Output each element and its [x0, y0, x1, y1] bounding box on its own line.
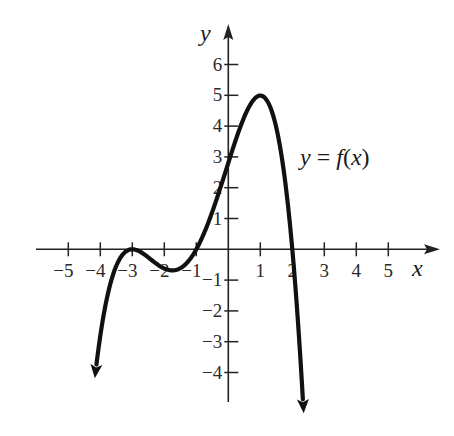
y-tick-label: 3: [213, 146, 223, 167]
function-curve: [96, 96, 302, 400]
x-tick-label: 5: [384, 260, 394, 281]
x-tick-label: 3: [320, 260, 330, 281]
y-tick-label: −2: [202, 300, 222, 321]
function-label-y: y: [298, 144, 311, 170]
x-tick-label: −4: [85, 260, 106, 281]
x-tick-label: 4: [352, 260, 362, 281]
y-tick-label: 6: [213, 54, 223, 75]
y-tick-label: −3: [202, 331, 222, 352]
x-tick-label: −5: [53, 260, 73, 281]
tick-labels: −5−4−3−2−112345654321−1−2−3−4: [53, 54, 393, 383]
x-tick-label: 1: [256, 260, 266, 281]
function-label: y = f(x): [298, 144, 370, 170]
function-label-x: x: [350, 144, 362, 170]
x-tick-label: −3: [117, 260, 137, 281]
y-tick-label: −4: [202, 362, 223, 383]
axes: [36, 24, 440, 402]
function-label-equals: =: [311, 144, 337, 170]
y-tick-label: −1: [202, 269, 222, 290]
x-axis-label: x: [411, 255, 423, 281]
function-label-open-paren: (: [343, 144, 351, 170]
y-axis-label: y: [198, 20, 211, 46]
y-tick-label: 5: [213, 84, 223, 105]
y-tick-label: 4: [213, 115, 223, 136]
function-label-close-paren: ): [362, 144, 370, 170]
function-graph: −5−4−3−2−112345654321−1−2−3−4 x y y = f(…: [0, 0, 454, 436]
